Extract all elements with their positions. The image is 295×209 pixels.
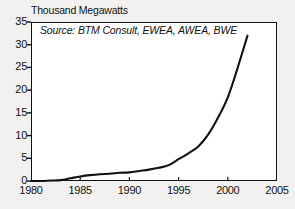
chart-title: Thousand Megawatts [31,4,128,16]
x-axis-ticks [80,177,228,181]
x-axis-tick-label: 2000 [216,184,239,196]
x-axis-tick-label: 1990 [118,184,141,196]
wind-capacity-chart: Thousand Megawatts Source: BTM Consult, … [0,0,295,209]
source-annotation: Source: BTM Consult, EWEA, AWEA, BWE [40,24,237,36]
x-axis-tick-label: 1995 [167,184,190,196]
y-axis-ticks [27,22,31,181]
x-axis-tick-label: 1985 [69,184,92,196]
data-series-line [31,36,247,181]
x-axis-tick-label: 1980 [19,184,42,196]
x-axis-tick-label: 2005 [265,184,288,196]
